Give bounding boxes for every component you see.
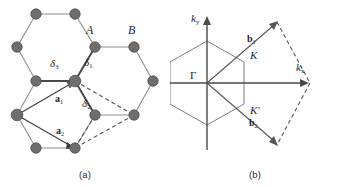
lattice-vectors xyxy=(17,81,75,149)
label-b1-vector: b1 xyxy=(247,34,256,45)
label-delta1: δ1 xyxy=(84,57,93,70)
figure-graphene-lattice: A B δ1 δ2 δ3 a1 a2 (a) xyxy=(0,0,340,186)
reciprocal-cell-edge xyxy=(277,83,310,145)
b1-vector-line xyxy=(207,25,274,83)
unit-cell-edge xyxy=(75,115,134,148)
atom xyxy=(90,110,100,120)
reciprocal-cell-edge xyxy=(277,22,310,83)
label-a1-vector: a1 xyxy=(55,94,63,105)
label-k-prime-point: K′ xyxy=(250,105,260,116)
bond xyxy=(17,47,36,81)
label-gamma-point: Γ xyxy=(190,70,196,81)
atom xyxy=(70,9,80,19)
a1-vector-line xyxy=(17,83,72,115)
atom-b-sublattice xyxy=(129,42,139,52)
atom xyxy=(31,143,41,153)
b2-vector-line xyxy=(207,83,274,141)
atom-a-sublattice xyxy=(90,42,100,52)
atom xyxy=(148,76,158,86)
atom xyxy=(70,143,80,153)
kx-axis-arrowhead xyxy=(300,79,309,87)
bond xyxy=(134,47,153,81)
atom xyxy=(129,110,139,120)
atom xyxy=(11,109,23,121)
panel-b-drawing xyxy=(170,0,340,186)
bond xyxy=(134,81,153,115)
label-b2-vector: b2 xyxy=(249,118,258,129)
label-delta2: δ2 xyxy=(82,98,91,111)
label-ky-axis: ky xyxy=(191,13,199,26)
panel-a-drawing xyxy=(0,0,170,186)
atom xyxy=(31,76,41,86)
panel-a-real-space-lattice: A B δ1 δ2 δ3 a1 a2 (a) xyxy=(0,0,170,186)
label-sublattice-a: A xyxy=(86,24,93,36)
caption-panel-a: (a) xyxy=(0,169,170,180)
label-delta3: δ3 xyxy=(50,58,59,71)
bond xyxy=(75,115,95,148)
atom-center xyxy=(69,75,81,87)
label-k-point: K xyxy=(250,50,257,61)
atom xyxy=(12,42,22,52)
panel-b-reciprocal-lattice: ky kx Γ K K′ b1 b2 (b) xyxy=(170,0,340,186)
label-kx-axis: kx xyxy=(296,62,304,75)
label-a2-vector: a2 xyxy=(56,126,64,137)
atom xyxy=(31,9,41,19)
caption-panel-b: (b) xyxy=(170,169,340,180)
bond xyxy=(17,14,36,47)
ky-axis-arrowhead xyxy=(203,16,211,25)
label-sublattice-b: B xyxy=(128,24,135,36)
